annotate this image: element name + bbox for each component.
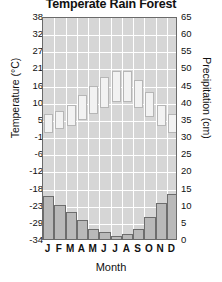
temperature-tick--23: -23 bbox=[9, 201, 43, 211]
temperature-tick--12: -12 bbox=[9, 166, 43, 176]
temperature-bar bbox=[89, 86, 98, 114]
precipitation-bar bbox=[99, 232, 110, 239]
precipitation-bar bbox=[167, 194, 177, 239]
temperature-bar bbox=[67, 105, 76, 127]
temperature-bar bbox=[100, 77, 109, 108]
temperature-tick-32: 32 bbox=[9, 29, 43, 39]
precipitation-tick-10: 10 bbox=[181, 201, 215, 211]
precipitation-bar bbox=[111, 236, 122, 239]
month-label-august: A bbox=[121, 243, 132, 255]
temperature-bar bbox=[145, 92, 154, 117]
month-label-october: O bbox=[143, 243, 154, 255]
month-label-june: J bbox=[98, 243, 109, 255]
month-label-january: J bbox=[42, 243, 53, 255]
temperature-bar bbox=[123, 71, 132, 102]
gridline-vertical bbox=[77, 18, 78, 239]
precipitation-tick-60: 60 bbox=[181, 29, 215, 39]
temperature-tick-27: 27 bbox=[9, 46, 43, 56]
temperature-tick--18: -18 bbox=[9, 184, 43, 194]
temperature-bar bbox=[55, 111, 64, 130]
gridline-vertical bbox=[66, 18, 67, 239]
month-label-march: M bbox=[65, 243, 76, 255]
plot-area bbox=[42, 17, 177, 240]
precipitation-bar bbox=[54, 205, 65, 239]
precipitation-bar bbox=[66, 212, 77, 239]
temperature-tick--29: -29 bbox=[9, 218, 43, 228]
temperature-bar bbox=[44, 114, 53, 133]
precipitation-tick-5: 5 bbox=[181, 218, 215, 228]
climate-chart: Temperate Rain Forest Temperature (°C) P… bbox=[0, 0, 222, 282]
temperature-bar bbox=[134, 80, 143, 108]
month-label-july: J bbox=[110, 243, 121, 255]
precipitation-tick-25: 25 bbox=[181, 149, 215, 159]
gridline-vertical bbox=[122, 18, 123, 239]
gridline-vertical bbox=[88, 18, 89, 239]
precipitation-bar bbox=[88, 229, 99, 239]
gridline-vertical bbox=[133, 18, 134, 239]
precipitation-bar bbox=[122, 234, 133, 239]
gridline-vertical bbox=[99, 18, 100, 239]
gridline-vertical bbox=[144, 18, 145, 239]
temperature-tick-38: 38 bbox=[9, 12, 43, 22]
precipitation-bar bbox=[43, 196, 54, 239]
precipitation-tick-50: 50 bbox=[181, 63, 215, 73]
precipitation-tick-45: 45 bbox=[181, 81, 215, 91]
temperature-tick-10: 10 bbox=[9, 98, 43, 108]
month-label-december: D bbox=[166, 243, 177, 255]
temperature-tick-5: 5 bbox=[9, 115, 43, 125]
precipitation-bar bbox=[144, 217, 155, 239]
precipitation-tick-0: 0 bbox=[181, 235, 215, 245]
x-axis-title: Month bbox=[0, 261, 222, 273]
precipitation-tick-55: 55 bbox=[181, 46, 215, 56]
gridline-vertical bbox=[111, 18, 112, 239]
temperature-tick--1: -1 bbox=[9, 132, 43, 142]
month-label-september: S bbox=[132, 243, 143, 255]
temperature-tick--6: -6 bbox=[9, 149, 43, 159]
precipitation-bar bbox=[133, 229, 144, 239]
x-axis-month-labels: JFMAMJJASOND bbox=[42, 243, 177, 256]
month-label-february: F bbox=[53, 243, 64, 255]
precipitation-bar bbox=[156, 203, 167, 239]
temperature-tick-16: 16 bbox=[9, 81, 43, 91]
precipitation-tick-20: 20 bbox=[181, 166, 215, 176]
month-label-november: N bbox=[155, 243, 166, 255]
temperature-bar bbox=[157, 105, 166, 127]
temperature-tick--34: -34 bbox=[9, 235, 43, 245]
temperature-tick-21: 21 bbox=[9, 63, 43, 73]
temperature-bar bbox=[112, 71, 121, 102]
chart-title: Temperate Rain Forest bbox=[0, 0, 222, 11]
precipitation-tick-30: 30 bbox=[181, 132, 215, 142]
precipitation-tick-40: 40 bbox=[181, 98, 215, 108]
temperature-bar bbox=[78, 95, 87, 120]
temperature-bar bbox=[168, 114, 177, 133]
precipitation-tick-35: 35 bbox=[181, 115, 215, 125]
month-label-april: A bbox=[76, 243, 87, 255]
precipitation-bar bbox=[77, 220, 88, 239]
month-label-may: M bbox=[87, 243, 98, 255]
precipitation-tick-65: 65 bbox=[181, 12, 215, 22]
precipitation-tick-15: 15 bbox=[181, 184, 215, 194]
